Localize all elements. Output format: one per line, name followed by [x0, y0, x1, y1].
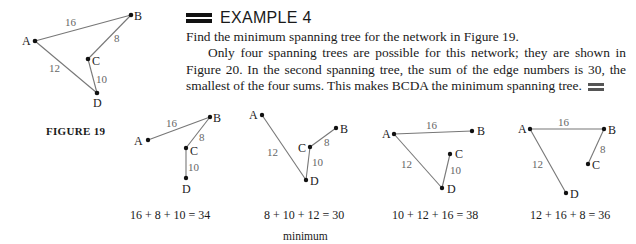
svg-text:D: D — [182, 182, 191, 196]
svg-text:10: 10 — [188, 161, 200, 173]
weight-ab: 16 — [65, 16, 77, 28]
svg-text:8: 8 — [324, 136, 330, 148]
svg-text:C: C — [190, 144, 198, 158]
svg-text:B: B — [340, 122, 348, 136]
spanning-tree-3: A B C D 16 12 10 — [380, 100, 520, 200]
sum-tree-3: 10 + 12 + 16 = 38 — [392, 208, 478, 223]
example-prompt: Find the minimum spanning tree for the n… — [186, 29, 626, 46]
svg-text:D: D — [570, 187, 579, 200]
vertex-c — [86, 57, 91, 62]
example-body: Only four spanning trees are possible fo… — [186, 45, 626, 95]
label-b: B — [134, 9, 142, 23]
svg-text:16: 16 — [558, 116, 570, 128]
weight-ad: 12 — [49, 62, 60, 74]
weight-bc: 8 — [114, 32, 120, 44]
sum-tree-1: 16 + 8 + 10 = 34 — [130, 208, 210, 223]
svg-text:B: B — [608, 123, 616, 137]
vertex-a — [33, 39, 38, 44]
svg-text:10: 10 — [312, 156, 324, 168]
spanning-tree-1: A B C D 16 8 10 — [110, 100, 240, 200]
sum-tree-4: 12 + 16 + 8 = 36 — [530, 208, 610, 223]
svg-text:10: 10 — [450, 164, 462, 176]
svg-text:C: C — [455, 147, 463, 161]
spanning-tree-4: A B C D 16 12 8 — [510, 100, 636, 200]
svg-text:12: 12 — [267, 146, 278, 158]
minimum-label: minimum — [283, 230, 328, 242]
svg-text:D: D — [447, 182, 456, 196]
example-body-text: Only four spanning trees are possible fo… — [186, 45, 626, 93]
label-c: C — [92, 54, 100, 68]
svg-text:8: 8 — [600, 143, 606, 155]
spanning-tree-2: A B C D 12 8 10 — [240, 100, 380, 200]
example-heading: EXAMPLE 4 — [186, 9, 312, 27]
label-d: D — [93, 96, 102, 110]
svg-text:B: B — [477, 124, 485, 138]
svg-text:C: C — [298, 141, 306, 155]
svg-text:D: D — [310, 174, 319, 188]
sum-tree-2: 8 + 10 + 12 = 30 — [264, 208, 344, 223]
example-heading-text: EXAMPLE 4 — [220, 9, 312, 27]
svg-text:A: A — [134, 134, 143, 148]
svg-text:C: C — [592, 158, 600, 172]
svg-text:A: A — [518, 122, 527, 136]
svg-text:A: A — [382, 127, 391, 141]
edge-bc — [88, 15, 131, 59]
svg-text:8: 8 — [199, 131, 205, 143]
figure-19-caption: FIGURE 19 — [46, 125, 105, 137]
vertex-d — [95, 91, 100, 96]
svg-text:B: B — [213, 111, 221, 125]
svg-text:12: 12 — [401, 158, 412, 170]
edge-ad — [35, 41, 97, 93]
svg-text:A: A — [249, 108, 258, 122]
section-bars-icon — [186, 13, 212, 23]
svg-text:12: 12 — [532, 158, 543, 170]
vertex-b — [129, 13, 134, 18]
end-of-example-icon — [588, 83, 604, 91]
svg-text:16: 16 — [166, 117, 178, 129]
weight-cd: 10 — [96, 73, 108, 85]
label-a: A — [22, 34, 31, 48]
svg-text:16: 16 — [426, 119, 438, 131]
